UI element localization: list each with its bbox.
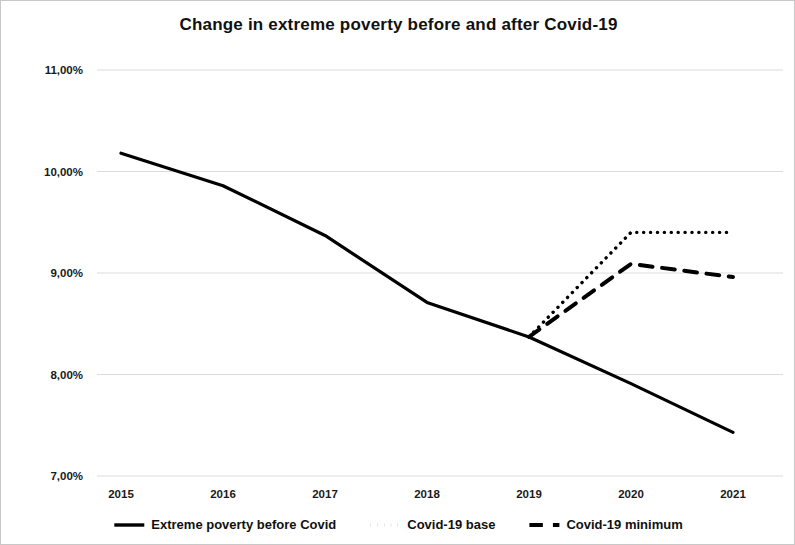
y-axis-tick-label: 7,00% bbox=[50, 470, 83, 482]
x-axis-tick-label: 2018 bbox=[414, 488, 440, 500]
x-axis-labels-group: 2015201620172018201920202021 bbox=[108, 488, 746, 500]
x-axis-tick-label: 2020 bbox=[618, 488, 644, 500]
x-axis-tick-label: 2017 bbox=[312, 488, 338, 500]
x-axis-tick-label: 2015 bbox=[108, 488, 134, 500]
y-axis-labels-group: 11,00%10,00%9,00%8,00%7,00% bbox=[44, 64, 83, 482]
legend-label: Extreme poverty before Covid bbox=[151, 517, 336, 532]
series-line bbox=[121, 153, 733, 432]
y-axis-tick-label: 10,00% bbox=[44, 166, 83, 178]
gridlines-group bbox=[97, 70, 783, 476]
y-axis-tick-label: 11,00% bbox=[45, 64, 83, 76]
legend-group: Extreme poverty before CovidCovid-19 bas… bbox=[114, 517, 682, 532]
x-axis-tick-label: 2019 bbox=[516, 488, 542, 500]
line-chart-plot: 11,00%10,00%9,00%8,00%7,00% 201520162017… bbox=[1, 1, 795, 545]
data-series-group bbox=[121, 153, 733, 432]
y-axis-tick-label: 9,00% bbox=[50, 267, 83, 279]
x-axis-tick-label: 2016 bbox=[210, 488, 236, 500]
legend-label: Covid-19 minimum bbox=[566, 517, 682, 532]
series-line bbox=[529, 232, 733, 337]
y-axis-tick-label: 8,00% bbox=[50, 369, 83, 381]
legend-label: Covid-19 base bbox=[407, 517, 495, 532]
chart-container: Change in extreme poverty before and aft… bbox=[0, 0, 795, 545]
series-line bbox=[529, 264, 733, 337]
x-axis-tick-label: 2021 bbox=[720, 488, 746, 500]
